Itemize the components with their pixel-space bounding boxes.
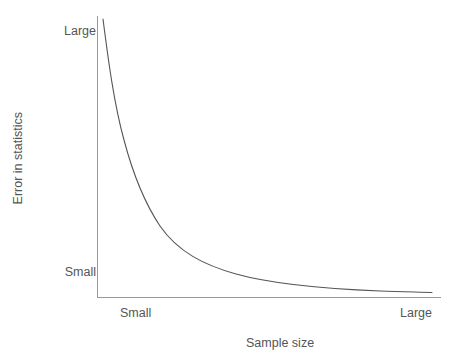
chart-canvas: [0, 0, 454, 359]
y-axis-tick-large: Large: [64, 25, 96, 38]
y-axis-title: Error in statistics: [12, 98, 25, 218]
x-axis-tick-small: Small: [120, 307, 151, 320]
error-curve: [103, 19, 432, 293]
error-vs-sample-size-chart: Large Small Small Large Sample size Erro…: [0, 0, 454, 359]
x-axis-title: Sample size: [246, 337, 314, 350]
x-axis-tick-large: Large: [400, 307, 432, 320]
y-axis-tick-small: Small: [65, 266, 96, 279]
